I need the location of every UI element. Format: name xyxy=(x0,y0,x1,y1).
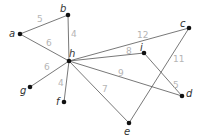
edge-weight-label: 6 xyxy=(44,62,50,72)
node-a xyxy=(18,32,23,37)
edge-weight-label: 7 xyxy=(102,84,108,94)
node-g xyxy=(28,85,33,90)
node-label-g: g xyxy=(20,85,26,96)
edge-h-i xyxy=(69,53,144,61)
node-b xyxy=(66,13,71,18)
node-h xyxy=(67,59,72,64)
node-f xyxy=(62,100,67,105)
node-label-a: a xyxy=(9,28,15,39)
node-d xyxy=(180,94,185,99)
node-label-e: e xyxy=(124,126,130,137)
edge-weight-label: 5 xyxy=(173,80,179,90)
node-label-i: i xyxy=(140,42,143,53)
node-label-f: f xyxy=(56,96,61,107)
edge-weight-label: 4 xyxy=(71,29,77,39)
node-label-h: h xyxy=(69,48,75,59)
node-e xyxy=(127,121,132,126)
edge-weight-label: 5 xyxy=(37,14,43,24)
node-label-d: d xyxy=(186,88,193,99)
edge-a-b xyxy=(20,15,68,34)
edge-weight-label: 4 xyxy=(58,78,64,88)
edge-labels-group: 5646412897115 xyxy=(37,14,184,94)
edge-h-f xyxy=(64,61,69,102)
edge-weight-label: 8 xyxy=(126,46,132,56)
weighted-graph: 5646412897115 abcdefghi xyxy=(0,0,202,140)
edge-weight-label: 9 xyxy=(118,68,124,78)
edge-a-h xyxy=(20,34,69,61)
node-c xyxy=(187,26,192,31)
node-label-c: c xyxy=(180,18,186,29)
edge-weight-label: 6 xyxy=(46,38,52,48)
node-label-b: b xyxy=(60,3,66,14)
edge-weight-label: 12 xyxy=(137,30,148,40)
edge-weight-label: 11 xyxy=(173,54,184,64)
